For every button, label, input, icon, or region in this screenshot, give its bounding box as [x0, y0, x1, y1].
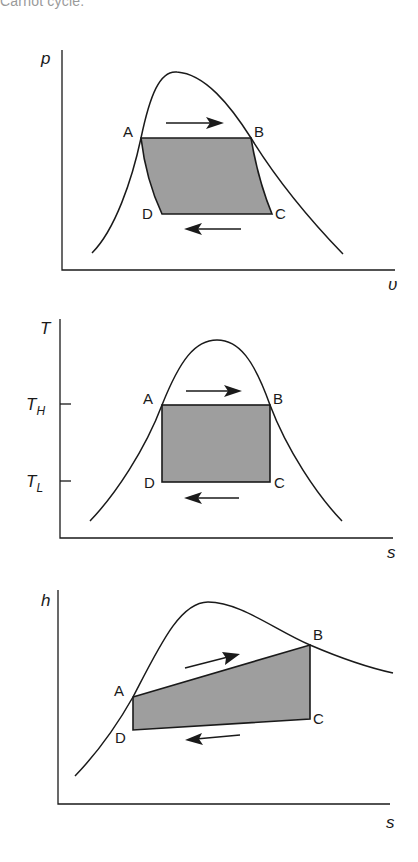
ts-point-c: C	[274, 474, 285, 491]
pv-diagram: p υ A B C D	[40, 49, 397, 294]
ts-arrow-left-icon	[184, 492, 239, 504]
ts-point-d: D	[144, 474, 155, 491]
hs-arrow-left-icon	[185, 733, 240, 745]
ts-point-b: B	[273, 390, 283, 407]
pv-arrow-left-icon	[184, 223, 241, 235]
ts-arrow-right-icon	[186, 385, 242, 397]
pv-y-label: p	[40, 49, 50, 68]
hs-point-d: D	[115, 729, 126, 746]
ts-diagram: T s TH TL A B C D	[26, 319, 396, 562]
ts-y-label: T	[40, 319, 52, 338]
ts-tl-label: TL	[26, 472, 43, 495]
hs-cycle-area	[133, 645, 310, 730]
pv-cycle-area	[141, 138, 272, 214]
ts-x-label: s	[387, 543, 396, 562]
pv-arrow-right-icon	[166, 117, 224, 129]
pv-x-label: υ	[388, 275, 397, 294]
pv-point-b: B	[254, 123, 264, 140]
pv-point-c: C	[275, 205, 286, 222]
carnot-cycle-diagrams: p υ A B C D T s TH TL	[0, 0, 418, 862]
hs-arrow-right-icon	[185, 652, 240, 668]
hs-x-label: s	[386, 813, 395, 832]
hs-point-a: A	[114, 682, 124, 699]
ts-cycle-area	[162, 405, 270, 482]
hs-y-label: h	[41, 591, 50, 610]
hs-point-b: B	[313, 626, 323, 643]
hs-point-c: C	[313, 710, 324, 727]
pv-point-d: D	[142, 205, 153, 222]
hs-diagram: h s A B C D	[41, 590, 395, 832]
pv-point-a: A	[123, 123, 133, 140]
ts-th-label: TH	[26, 395, 45, 418]
ts-point-a: A	[143, 390, 153, 407]
